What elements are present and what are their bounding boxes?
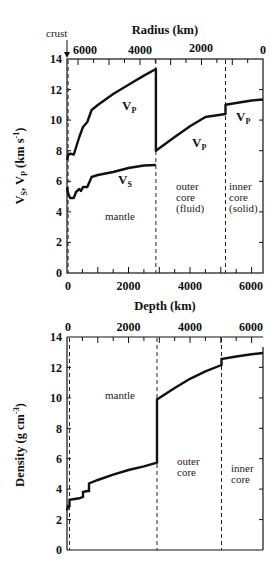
vp-label-outer-core: VP (192, 135, 206, 152)
crust-arrowhead-icon (64, 52, 70, 58)
density-inner-core-label-2: core (231, 473, 250, 485)
velocity-plot-frame (67, 59, 263, 273)
density-ytick-14: 14 (50, 330, 62, 344)
depth-axis-title: Depth (km) (134, 299, 195, 313)
depth-tick-2000: 2000 (117, 279, 141, 293)
radius-tick-2000: 2000 (189, 41, 213, 55)
velocity-ytick-4: 4 (56, 205, 62, 219)
velocity-y-axis-title: VS, VP (km s-1) (12, 128, 29, 205)
density-ytick-2: 2 (56, 513, 62, 527)
radius-tick-0: 0 (260, 43, 266, 57)
vp-label-inner-core: VP (236, 109, 250, 126)
density-curve (67, 353, 263, 511)
radius-tick-4000: 4000 (128, 43, 152, 57)
density-mantle-label: mantle (105, 389, 135, 401)
density-plot: 0 2000 4000 6000 (12, 320, 263, 557)
velocity-ytick-0: 0 (56, 266, 62, 280)
density-outer-core-label-2: core (177, 466, 196, 478)
velocity-ytick-6: 6 (56, 174, 62, 188)
density-ytick-0: 0 (56, 543, 62, 557)
density-depth-tick-0: 0 (65, 320, 71, 334)
velocity-ytick-14: 14 (50, 52, 62, 66)
density-ytick-10: 10 (50, 391, 62, 405)
density-ytick-4: 4 (56, 482, 62, 496)
density-boundaries (70, 338, 222, 550)
velocity-y-ticks (67, 90, 263, 243)
velocity-ytick-10: 10 (50, 113, 62, 127)
density-ytick-12: 12 (50, 361, 62, 375)
crust-label: crust (46, 27, 67, 39)
figure: Radius (km) crust 6000 4000 2000 0 (0, 0, 278, 568)
mantle-label: mantle (105, 210, 135, 222)
depth-tick-0: 0 (65, 279, 71, 293)
velocity-ytick-12: 12 (50, 83, 62, 97)
density-y-axis-title: Density (g cm-3) (12, 403, 27, 487)
density-depth-tick-4000: 4000 (178, 320, 202, 334)
vs-curve (67, 165, 156, 198)
depth-tick-6000: 6000 (239, 279, 263, 293)
vs-label: VS (118, 172, 132, 189)
density-ytick-8: 8 (56, 422, 62, 436)
depth-ticks-top-plot (82, 267, 251, 273)
velocity-ytick-8: 8 (56, 144, 62, 158)
radius-ticks (78, 59, 248, 65)
density-y-ticks (67, 367, 263, 519)
inner-core-label-3: (solid) (229, 202, 258, 215)
density-depth-tick-2000: 2000 (117, 320, 141, 334)
velocity-plot: Radius (km) crust 6000 4000 2000 0 (12, 23, 266, 293)
velocity-ytick-2: 2 (56, 235, 62, 249)
radius-axis-title: Radius (km) (132, 23, 198, 37)
outer-core-label-3: (fluid) (176, 202, 204, 215)
density-ytick-6: 6 (56, 452, 62, 466)
depth-tick-4000: 4000 (178, 279, 202, 293)
radius-tick-6000: 6000 (73, 43, 97, 57)
density-depth-tick-6000: 6000 (239, 320, 263, 334)
vp-label-mantle: VP (122, 98, 136, 115)
vp-curve (67, 69, 263, 160)
density-top-ticks (82, 337, 251, 343)
